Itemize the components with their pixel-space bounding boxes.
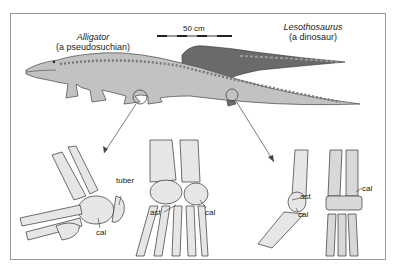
alligator-descriptor: (a pseudosuchian) [52, 42, 134, 52]
cal-label-far-right: cal [362, 184, 372, 194]
alligator-name: Alligator [52, 32, 134, 42]
leader-lines [98, 188, 362, 228]
alligator-ankle-lateral [20, 146, 124, 240]
scale-bar [157, 35, 232, 37]
cal-label-middle: cal [205, 208, 215, 218]
ast-label-middle: ast [150, 208, 161, 218]
scale-bar-label: 50 cm [183, 24, 205, 34]
cal-label-left: cal [96, 228, 106, 238]
alligator-ankle-anterior [136, 140, 208, 256]
dinosaur-ankle-anterior [326, 150, 362, 256]
cal-label-right: cal [298, 210, 308, 220]
lesothosaurus-name: Lesothosaurus [268, 22, 358, 32]
lesothosaurus-descriptor: (a dinosaur) [268, 32, 358, 42]
ast-label-right: ast [300, 192, 311, 202]
tuber-label: tuber [116, 176, 134, 186]
